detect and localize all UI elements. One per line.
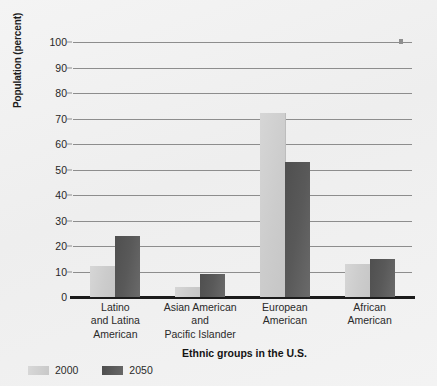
bar-group [345,42,395,297]
x-axis-category-labels: Latinoand LatinaAmericanAsian Americanan… [73,301,412,347]
bar-group [90,42,140,297]
legend-swatch-2050 [102,366,123,375]
category-label-line: African [327,301,412,314]
y-axis-title: Population (percent) [12,0,23,108]
x-axis-category-label: AfricanAmerican [327,301,412,328]
y-axis-tick-label: 80 [55,87,67,99]
y-axis-tick-mark [67,118,72,119]
category-label-line: Pacific Islander [158,328,243,341]
bar-2050[interactable] [115,236,140,297]
x-axis-category-label: Asian AmericanandPacific Islander [158,301,243,341]
category-label-line: Asian American [158,301,243,314]
bar-2000[interactable] [175,287,201,297]
bar-2050[interactable] [370,259,395,297]
gridline-tick-mark [399,39,403,44]
category-label-line: and Latina [73,314,158,327]
bar-2000[interactable] [260,113,286,297]
y-axis-tick-label: 20 [55,240,67,252]
legend-item-2050[interactable]: 2050 [102,364,152,376]
y-axis-tick-label: 40 [55,189,67,201]
y-axis-tick-mark [67,93,72,94]
y-axis-tick-mark [67,195,72,196]
category-label-line: American [327,314,412,327]
x-axis-title: Ethnic groups in the U.S. [0,347,437,359]
bar-2050[interactable] [200,274,225,297]
x-axis-category-label: EuropeanAmerican [243,301,328,328]
legend-swatch-2000 [28,366,49,375]
y-axis-tick-label: 90 [55,62,67,74]
y-axis-tick-label: 50 [55,164,67,176]
bar-2000[interactable] [345,264,371,297]
legend-label: 2050 [129,364,152,376]
bar-2050[interactable] [285,162,310,297]
bar-chart-figure: Population (percent) 0102030405060708090… [0,0,437,386]
y-axis-tick-mark [67,144,72,145]
category-label-line: European [243,301,328,314]
bar-group [260,42,310,297]
legend: 20002050 [28,364,153,376]
y-axis-tick-mark [67,271,72,272]
legend-label: 2000 [55,364,78,376]
y-axis-tick-label: 10 [55,266,67,278]
y-axis-tick-mark [67,67,72,68]
category-label-line: and [158,314,243,327]
bar-group [175,42,225,297]
x-axis-category-label: Latinoand LatinaAmerican [73,301,158,341]
y-axis-title-text: Population (percent) [12,0,23,108]
y-axis-tick-mark [67,220,72,221]
y-axis-tick-label: 60 [55,138,67,150]
category-label-line: American [73,328,158,341]
y-axis-tick-label: 30 [55,215,67,227]
y-axis-tick-mark [67,246,72,247]
y-axis-tick-label: 100 [49,36,67,48]
plot-area: 0102030405060708090100 [73,42,412,297]
y-axis-tick-mark [67,42,72,43]
category-label-line: Latino [73,301,158,314]
bar-2000[interactable] [90,266,116,297]
y-axis-tick-label: 0 [61,291,67,303]
y-axis-tick-mark [67,169,72,170]
y-axis-tick-label: 70 [55,113,67,125]
legend-item-2000[interactable]: 2000 [28,364,78,376]
category-label-line: American [243,314,328,327]
